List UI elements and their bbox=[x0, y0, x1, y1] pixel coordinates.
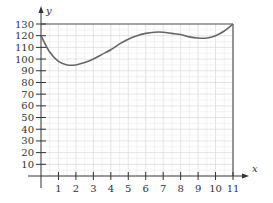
x-tick-label: 8 bbox=[177, 183, 183, 194]
x-tick-label: 5 bbox=[125, 183, 131, 194]
y-tick-label: 90 bbox=[21, 65, 34, 76]
y-tick-label: 30 bbox=[21, 135, 34, 146]
y-tick-label: 130 bbox=[15, 19, 34, 30]
y-tick-label: 50 bbox=[21, 112, 34, 123]
y-axis-label: y bbox=[45, 5, 52, 16]
y-tick-label: 40 bbox=[21, 124, 34, 135]
y-tick-label: 120 bbox=[15, 30, 34, 41]
x-tick-label: 4 bbox=[108, 183, 114, 194]
y-axis-arrow-icon bbox=[39, 6, 44, 13]
line-chart: 1234567891011 10203040506070809010011012… bbox=[0, 0, 273, 203]
x-tick-label: 7 bbox=[160, 183, 166, 194]
y-tick-label: 20 bbox=[21, 147, 34, 158]
x-tick-label: 2 bbox=[73, 183, 79, 194]
x-axis-arrow-icon bbox=[242, 174, 249, 179]
y-tick-label: 60 bbox=[21, 100, 34, 111]
y-tick-label: 70 bbox=[21, 89, 34, 100]
x-tick-label: 1 bbox=[55, 183, 61, 194]
y-tick-label: 80 bbox=[21, 77, 34, 88]
x-tick-label: 3 bbox=[90, 183, 96, 194]
x-tick-label: 11 bbox=[227, 183, 240, 194]
y-tick-label: 110 bbox=[15, 42, 34, 53]
grid-lines bbox=[41, 24, 233, 176]
x-tick-label: 10 bbox=[209, 183, 222, 194]
x-tick-label: 9 bbox=[195, 183, 201, 194]
y-tick-label: 10 bbox=[21, 159, 34, 170]
x-axis-ticks: 1234567891011 bbox=[55, 172, 239, 194]
y-tick-label: 100 bbox=[15, 54, 34, 65]
x-tick-label: 6 bbox=[143, 183, 149, 194]
x-axis-label: x bbox=[252, 163, 258, 174]
